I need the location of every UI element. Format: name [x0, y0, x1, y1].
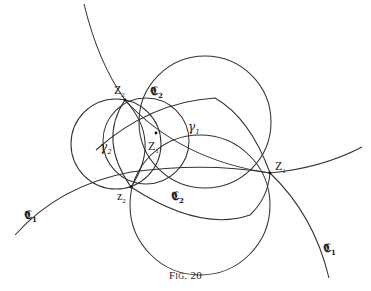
- label-gamma2: γ2: [100, 140, 112, 156]
- label-C1-left: 𝕮1: [24, 208, 37, 224]
- label-z2: z2: [117, 189, 126, 205]
- caption-fig-word: Fig.: [169, 269, 188, 281]
- arc-z2-Z1-inner: [131, 173, 270, 220]
- curve-long-arc-left-right: [15, 147, 362, 235]
- label-Z1: Z1: [275, 159, 286, 175]
- label-C2-top: 𝕮2: [150, 84, 163, 100]
- label-Z2: Z2: [114, 83, 125, 99]
- point-Z2: [124, 99, 127, 102]
- label-C1-right: 𝕮1: [323, 241, 336, 257]
- caption-fig-number: 20: [190, 269, 202, 281]
- geometric-diagram: Z2 Z1 z2 Z1 𝕮2 𝕮2 𝕮1 𝕮1 γ1 γ2: [0, 0, 371, 291]
- label-z1: Z1: [148, 139, 159, 155]
- label-C2-bottom: 𝕮2: [171, 189, 184, 205]
- point-Z1: [269, 172, 272, 175]
- curve-C1-great-arc: [84, 4, 329, 278]
- figure-caption: Fig. 20: [0, 269, 371, 281]
- circle-C2-large: [139, 56, 271, 188]
- point-z2: [130, 186, 133, 189]
- arc-gamma1-upper: [96, 98, 270, 173]
- label-gamma1: γ1: [188, 120, 200, 136]
- point-z1: [155, 132, 158, 135]
- circle-lower-large: [130, 135, 270, 275]
